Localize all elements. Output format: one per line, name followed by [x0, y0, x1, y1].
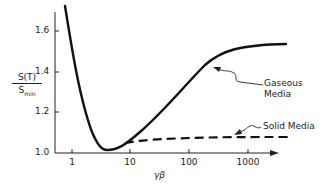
- y-axis-label-numerator: S(T): [12, 72, 42, 84]
- y-axis-label: S(T) Smin: [12, 72, 42, 97]
- y-axis-label-den-sub: min: [24, 90, 35, 97]
- x-tick-label: 100: [169, 157, 209, 167]
- x-axis-arrow-icon: [270, 150, 279, 156]
- solid-media-annotation: Solid Media: [263, 121, 315, 132]
- gaseous-label-line2: Media: [264, 89, 303, 100]
- solid-media-curve: [125, 137, 288, 143]
- x-axis-label: γβ: [154, 170, 165, 180]
- gaseous-media-annotation: Gaseous Media: [264, 78, 303, 100]
- x-tick-label: 1000: [228, 157, 268, 167]
- x-tick-label: 10: [110, 157, 150, 167]
- gaseous-label-line1: Gaseous: [264, 78, 303, 89]
- gaseous-annotation-leader: [218, 69, 263, 85]
- y-axis-label-denominator: Smin: [12, 84, 42, 97]
- solid-arrow-icon: [234, 129, 242, 135]
- x-tick-label: 1: [52, 157, 92, 167]
- gaseous-media-curve: [65, 6, 286, 150]
- solid-annotation-leader: [239, 126, 261, 132]
- y-tick-label: 1.2: [35, 106, 49, 116]
- y-tick-label: 1.6: [35, 25, 49, 35]
- gaseous-arrow-icon: [213, 67, 221, 72]
- y-tick-label: 1.0: [35, 147, 49, 157]
